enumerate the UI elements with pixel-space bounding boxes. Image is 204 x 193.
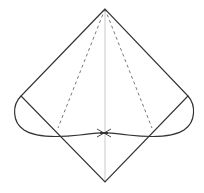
square-outline [21,9,188,182]
right-curved-flap [104,96,194,136]
left-dashed-fold [58,9,105,128]
left-curved-flap [15,96,104,136]
right-dashed-fold [105,9,152,128]
fold-diagram [0,0,204,193]
